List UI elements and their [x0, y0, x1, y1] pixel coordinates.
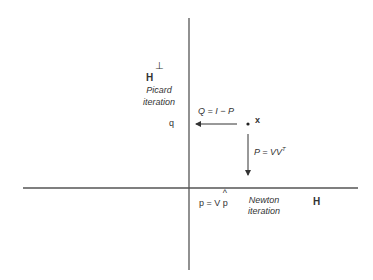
picard-label-line1: Picard	[135, 86, 183, 95]
diagram-canvas	[0, 0, 373, 280]
q-operator-label: Q = I − P	[198, 107, 234, 116]
point-x-dot	[246, 122, 249, 125]
h-perp-base: H	[146, 72, 153, 83]
p-hat-base: p	[223, 198, 228, 208]
p-eq-text: p = V	[199, 198, 220, 208]
h-perp-label: H	[146, 73, 153, 83]
p-operator-base: P = VV	[254, 147, 282, 157]
newton-label-line1: Newton	[244, 196, 284, 205]
h-label: H	[313, 197, 320, 207]
q-label: q	[169, 119, 174, 128]
perp-symbol: ⊥	[155, 61, 164, 71]
p-operator-label: P = VVT	[254, 146, 286, 157]
picard-label-line2: iteration	[135, 98, 183, 107]
hat-symbol: ^	[223, 189, 227, 198]
point-x-label: x	[255, 116, 260, 125]
p-hat: ^ p	[223, 199, 228, 208]
newton-label-line2: iteration	[244, 207, 284, 216]
transpose-sup: T	[282, 146, 286, 152]
p-equation-label: p = V ^ p	[199, 199, 228, 208]
